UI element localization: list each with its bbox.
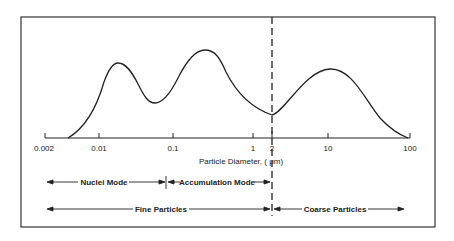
particle-size-distribution-diagram: 0.002 0.01 0.1 1 2 10 100 Particle Diame… bbox=[0, 0, 454, 241]
x-axis-tick-labels: 0.002 0.01 0.1 1 2 10 100 bbox=[34, 144, 417, 153]
fine-left-arrow-icon bbox=[47, 207, 53, 211]
tick-label-0.1: 0.1 bbox=[167, 144, 179, 153]
tick-label-1: 1 bbox=[251, 144, 256, 153]
accumulation-right-arrow-icon bbox=[264, 180, 270, 184]
fine-particles-label: Fine Particles bbox=[135, 205, 188, 214]
nuclei-mode-label: Nuclei Mode bbox=[80, 178, 128, 187]
fine-right-arrow-icon bbox=[264, 207, 270, 211]
distribution-curve bbox=[68, 50, 408, 138]
nuclei-right-arrow-icon bbox=[159, 180, 165, 184]
coarse-particles-label: Coarse Particles bbox=[304, 205, 367, 214]
nuclei-left-arrow-icon bbox=[47, 180, 53, 184]
coarse-right-arrow-icon bbox=[398, 207, 404, 211]
x-axis-ticks bbox=[45, 131, 410, 138]
x-axis-title: Particle Diameter, ( μm) bbox=[199, 157, 284, 166]
tick-label-0.01: 0.01 bbox=[91, 144, 107, 153]
diagram-frame bbox=[21, 17, 435, 227]
tick-label-10: 10 bbox=[324, 144, 333, 153]
accumulation-mode-label: Accumulation Mode bbox=[179, 178, 256, 187]
tick-label-100: 100 bbox=[403, 144, 417, 153]
tick-label-0.002: 0.002 bbox=[34, 144, 55, 153]
